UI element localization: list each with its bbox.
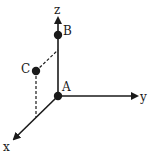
coordinate-diagram: z y x A B C — [0, 0, 152, 158]
point-c — [32, 67, 40, 75]
point-a — [54, 92, 62, 100]
x-axis-label: x — [3, 140, 10, 154]
point-b-label: B — [63, 24, 72, 38]
z-axis-label: z — [54, 3, 60, 17]
y-axis-label: y — [139, 90, 147, 104]
point-b — [54, 31, 62, 39]
point-c-label: C — [21, 62, 30, 76]
diagram-svg: z y x A B C — [0, 0, 152, 158]
projection-c-to-z — [36, 50, 58, 71]
point-a-label: A — [61, 80, 71, 94]
